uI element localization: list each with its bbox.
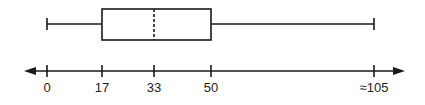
tick-label: ≈105 [360, 80, 389, 95]
right-arrow-icon [393, 67, 405, 75]
iqr-box [102, 9, 211, 40]
left-arrow-icon [24, 67, 36, 75]
tick-label: 33 [147, 80, 161, 95]
tick-label: 0 [43, 80, 50, 95]
tick-label: 50 [204, 80, 218, 95]
tick-label: 17 [95, 80, 109, 95]
